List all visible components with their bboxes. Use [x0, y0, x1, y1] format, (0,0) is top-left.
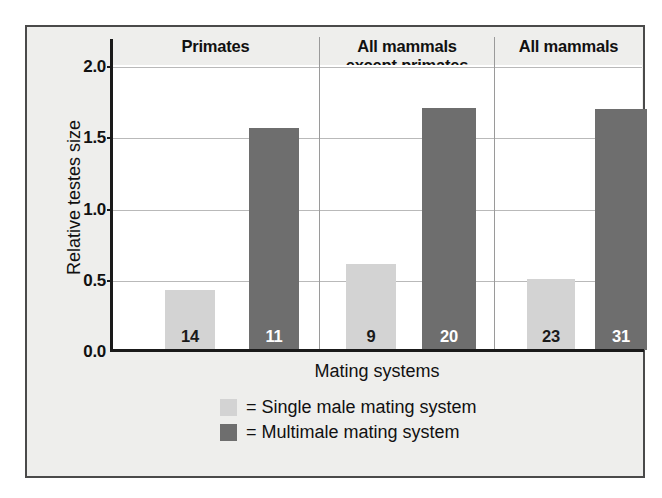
y-tick-label-0.0: 0.0 [60, 342, 106, 362]
legend-item-single-male: = Single male mating system [112, 395, 642, 420]
panel-title-all-mammals: All mammals [495, 37, 642, 56]
panel-separator-2 [494, 65, 495, 350]
legend-label-multimale: = Multimale mating system [246, 422, 460, 443]
x-axis-label: Mating systems [112, 361, 642, 382]
legend-item-multimale: = Multimale mating system [112, 420, 642, 445]
legend-swatch-single-male [220, 399, 237, 416]
legend-swatch-multimale [220, 424, 237, 441]
plot-area: 14 11 9 20 23 31 [112, 65, 642, 350]
y-axis-label: Relative testes size [64, 83, 85, 313]
bar-except-primates-single-male: 9 [346, 264, 396, 350]
bar-value-all-mammals-multimale: 31 [595, 327, 647, 346]
legend: = Single male mating system = Multimale … [112, 395, 642, 445]
x-axis-line [110, 349, 644, 352]
panel-title-all-mammals-text: All mammals [519, 37, 619, 55]
gridline-2.0 [112, 67, 642, 68]
gridline-1.0 [112, 210, 642, 211]
panel-title-primates: Primates [112, 37, 319, 56]
y-tick-label-2.0: 2.0 [60, 57, 106, 77]
panel-title-primates-text: Primates [181, 37, 249, 55]
panel-title-row: Primates All mammals except primates All… [112, 37, 642, 65]
bar-all-mammals-single-male: 23 [527, 279, 575, 350]
bar-value-all-mammals-single-male: 23 [527, 327, 575, 346]
bar-except-primates-multimale: 20 [422, 108, 476, 350]
panel-separator-1 [319, 65, 320, 350]
bar-all-mammals-multimale: 31 [595, 109, 647, 350]
panel-title-except-line1: All mammals [357, 37, 457, 55]
bar-value-primates-single-male: 14 [165, 327, 215, 346]
bar-value-except-primates-multimale: 20 [422, 327, 476, 346]
bar-value-primates-multimale: 11 [249, 327, 299, 346]
gridline-1.5 [112, 138, 642, 139]
bar-primates-single-male: 14 [165, 290, 215, 350]
figure-frame: Primates All mammals except primates All… [25, 25, 645, 478]
bar-value-except-primates-single-male: 9 [346, 327, 396, 346]
y-axis-line [110, 39, 113, 352]
legend-label-single-male: = Single male mating system [246, 397, 477, 418]
bar-primates-multimale: 11 [249, 128, 299, 350]
